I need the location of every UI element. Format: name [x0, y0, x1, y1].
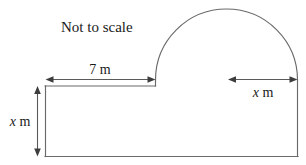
semicircle-arc: [156, 9, 298, 80]
height-label: x m: [9, 114, 31, 129]
not-to-scale-note: Not to scale: [61, 19, 133, 35]
arrowhead-right-icon: [290, 76, 298, 83]
geometry-figure: 7 m x m x m Not to scale: [0, 0, 306, 165]
arrowhead-left-icon: [228, 76, 236, 83]
figure-canvas: 7 m x m x m Not to scale: [0, 0, 306, 165]
top-width-label: 7 m: [89, 62, 111, 77]
height-label-unit: m: [16, 114, 31, 129]
radius-label: x m: [252, 85, 274, 100]
radius-label-unit: m: [259, 85, 274, 100]
dimension-rectangle-height: x m: [9, 86, 41, 157]
arrowhead-up-icon: [34, 86, 41, 94]
arrowhead-down-icon: [34, 149, 41, 157]
dimension-semicircle-radius: x m: [228, 76, 298, 100]
dimension-top-width: 7 m: [46, 62, 156, 83]
arrowhead-left-icon: [46, 76, 54, 83]
arrowhead-right-icon: [148, 76, 156, 83]
